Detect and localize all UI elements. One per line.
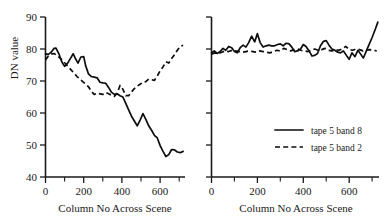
left-xtick-600: 600 <box>152 185 169 197</box>
right-series-tape5band8 <box>212 22 378 59</box>
right-panel-plot: 0 200 400 600 Column No Across Scene tap… <box>193 0 387 220</box>
right-xtick-0: 0 <box>209 185 215 197</box>
left-xtick-200: 200 <box>75 185 92 197</box>
left-xaxis-title: Column No Across Scene <box>58 202 171 214</box>
left-series-tape5band2 <box>46 45 184 96</box>
figure-container: 90 80 70 60 50 40 0 200 400 600 Column N… <box>0 0 387 220</box>
left-panel-plot: 90 80 70 60 50 40 0 200 400 600 Column N… <box>0 0 193 220</box>
right-panel: 0 200 400 600 Column No Across Scene tap… <box>193 0 387 220</box>
legend-label-tape5band8: tape 5 band 8 <box>311 126 362 136</box>
right-panel-axes <box>212 17 380 177</box>
left-xtick-400: 400 <box>114 185 131 197</box>
left-ytick-40: 40 <box>26 171 38 183</box>
left-x-ticklabels: 0 200 400 600 <box>43 185 169 197</box>
right-xaxis-title: Column No Across Scene <box>239 202 352 214</box>
right-xtick-400: 400 <box>295 185 312 197</box>
left-x-ticks <box>46 177 180 183</box>
right-xtick-200: 200 <box>249 185 266 197</box>
left-panel: 90 80 70 60 50 40 0 200 400 600 Column N… <box>0 0 193 220</box>
left-xtick-0: 0 <box>43 185 49 197</box>
left-ytick-60: 60 <box>26 107 38 119</box>
right-x-ticklabels: 0 200 400 600 <box>209 185 358 197</box>
legend-label-tape5band2: tape 5 band 2 <box>311 143 362 153</box>
left-ytick-80: 80 <box>26 43 38 55</box>
left-ytick-90: 90 <box>26 11 38 23</box>
right-y-ticks <box>206 17 212 177</box>
left-y-ticks <box>40 17 46 177</box>
right-x-ticks <box>212 177 373 183</box>
left-y-ticklabels: 90 80 70 60 50 40 <box>26 11 38 183</box>
left-ytick-70: 70 <box>26 75 38 87</box>
right-xtick-600: 600 <box>341 185 358 197</box>
left-ytick-50: 50 <box>26 139 38 151</box>
legend: tape 5 band 8 tape 5 band 2 <box>275 126 362 153</box>
left-yaxis-title: DN value <box>8 37 20 80</box>
